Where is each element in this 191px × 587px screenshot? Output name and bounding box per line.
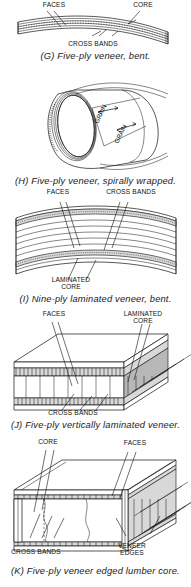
cross-bands-label-k: CROSS BANDS xyxy=(2,548,70,555)
panel-j-drawing xyxy=(0,310,191,420)
cross-bands-label-j: CROSS BANDS xyxy=(40,409,106,416)
cross-bands-label-g: CROSS BANDS xyxy=(60,40,126,47)
laminated-core-label-i-line2: CORE xyxy=(61,283,81,290)
caption-h: (H) Five-ply veneer, spirally wrapped. xyxy=(0,176,191,186)
veneer-edges-label-k-line1: VENEER xyxy=(118,542,146,549)
cross-bands-label-i: CROSS BANDS xyxy=(98,188,164,195)
laminated-core-label-j-line1: LAMINATED xyxy=(124,310,163,317)
laminated-core-label-i: LAMINATED CORE xyxy=(40,276,102,290)
laminated-core-label-j: LAMINATED CORE xyxy=(112,310,174,324)
laminated-core-label-i-line1: LAMINATED xyxy=(52,276,91,283)
spiral-tube-h xyxy=(47,83,168,170)
faces-label-i: FACES xyxy=(36,188,80,195)
faces-label-k: FACES xyxy=(112,439,158,446)
panel-j: FACES LAMINATED CORE CROSS BANDS (J) Fiv… xyxy=(0,310,191,438)
panel-k: CORE FACES CROSS BANDS VENEER EDGES (K) … xyxy=(0,438,191,587)
caption-i: (I) Nine-ply laminated veneer, bent. xyxy=(0,294,191,304)
core-label-k: CORE xyxy=(28,438,68,445)
core-label-g: CORE xyxy=(126,1,160,8)
bent-laminate-i xyxy=(16,206,176,274)
panel-g: FACES CORE CROSS BANDS (G) Five-ply vene… xyxy=(0,0,191,68)
panel-h: GRAIN GRAIN GRAIN GRAIN (H) Five-ply ven… xyxy=(0,68,191,188)
panel-i: FACES CROSS BANDS LAMINATED CORE (I) Nin… xyxy=(0,188,191,310)
veneer-edges-label-k-line2: EDGES xyxy=(120,549,144,556)
lumber-core-box-k xyxy=(14,460,191,551)
faces-label-j: FACES xyxy=(32,310,76,317)
caption-j: (J) Five-ply vertically laminated veneer… xyxy=(0,420,191,430)
laminated-block-j xyxy=(14,334,191,410)
panel-k-drawing xyxy=(0,438,191,564)
veneer-edges-label-k: VENEER EDGES xyxy=(106,542,158,556)
panel-h-drawing: GRAIN GRAIN xyxy=(0,68,191,176)
figure-plate: FACES CORE CROSS BANDS (G) Five-ply vene… xyxy=(0,0,191,587)
faces-label-g: FACES xyxy=(34,1,74,8)
caption-g: (G) Five-ply veneer, bent. xyxy=(0,51,191,61)
caption-k: (K) Five-ply veneer edged lumber core. xyxy=(0,566,191,576)
laminated-core-label-j-line2: CORE xyxy=(133,317,153,324)
